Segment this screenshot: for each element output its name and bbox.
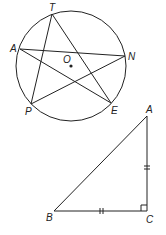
geometry-figures: O T A N E P A B C bbox=[0, 0, 166, 235]
label-n: N bbox=[128, 51, 136, 62]
triangle-figure bbox=[54, 116, 150, 214]
label-o: O bbox=[63, 54, 71, 65]
label-t: T bbox=[49, 2, 56, 13]
segment-an bbox=[20, 49, 125, 56]
segment-pn bbox=[31, 56, 125, 104]
label-p: P bbox=[25, 106, 32, 117]
label-tri-c: C bbox=[146, 214, 154, 225]
segment-tp bbox=[31, 14, 52, 104]
label-tri-a: A bbox=[145, 104, 153, 115]
label-e: E bbox=[111, 105, 118, 116]
right-angle-mark bbox=[141, 205, 147, 211]
segment-te bbox=[52, 14, 111, 103]
label-a: A bbox=[9, 43, 17, 54]
label-tri-b: B bbox=[46, 212, 53, 223]
triangle-abc bbox=[54, 116, 147, 211]
